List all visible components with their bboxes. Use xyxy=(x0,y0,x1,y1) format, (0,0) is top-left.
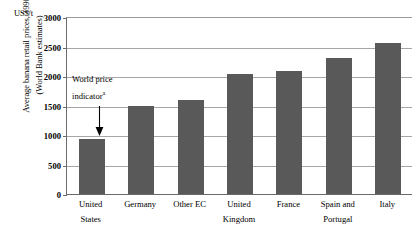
x-axis-category-label: Italy xyxy=(363,197,412,212)
y-axis-tick-label: 3000 xyxy=(44,13,61,23)
bar-slot xyxy=(166,18,215,194)
x-axis-category-label: UnitedStates xyxy=(66,197,115,227)
annotation-line-1: World price xyxy=(72,72,113,88)
x-axis-category-label-line: Other EC xyxy=(165,197,214,212)
x-axis-category-label: Other EC xyxy=(165,197,214,212)
y-axis-tick-label: 1500 xyxy=(44,102,61,112)
x-axis-category-label-line: United xyxy=(214,197,263,212)
x-axis-category-label-line: United xyxy=(66,197,115,212)
y-axis-tick-label: 2000 xyxy=(44,72,61,82)
x-axis-category-label-line: Kingdom xyxy=(214,212,263,227)
x-axis-category-labels: UnitedStatesGermanyOther ECUnitedKingdom… xyxy=(66,197,412,237)
bar[interactable] xyxy=(375,43,401,194)
plot-area: 050010001500200025003000 xyxy=(66,17,412,194)
x-axis-category-label-line: France xyxy=(264,197,313,212)
bar[interactable] xyxy=(79,139,105,194)
bar-series xyxy=(67,18,412,194)
bar-slot xyxy=(364,18,413,194)
x-axis-category-label: France xyxy=(264,197,313,212)
y-axis-tick-label: 500 xyxy=(48,161,61,171)
bar-slot xyxy=(67,18,116,194)
annotation-line-2: indicatora xyxy=(72,88,113,105)
y-axis-tick-label: 2500 xyxy=(44,43,61,53)
annotation-line-2-text: indicator xyxy=(72,91,103,101)
bar[interactable] xyxy=(227,74,253,194)
world-price-indicator-annotation: World price indicatora xyxy=(72,72,113,105)
bar-chart-figure: US$/t Average banana retail prices, 1990… xyxy=(0,0,420,238)
x-axis-category-label: Germany xyxy=(115,197,164,212)
down-arrow-icon xyxy=(95,106,104,136)
y-axis-title-line-1: Average banana retail prices, 1990 xyxy=(20,0,33,113)
bar-slot xyxy=(314,18,363,194)
bar-slot xyxy=(116,18,165,194)
x-axis-category-label-line: Germany xyxy=(115,197,164,212)
x-axis-category-label: Spain andPortugal xyxy=(313,197,362,227)
bar[interactable] xyxy=(178,100,204,194)
bar[interactable] xyxy=(326,58,352,194)
y-axis-title-line-2: (World Bank estimates) xyxy=(33,15,46,94)
y-axis-tick-label: 1000 xyxy=(44,131,61,141)
x-axis-category-label-line: Portugal xyxy=(313,212,362,227)
x-axis-category-label-line: Spain and xyxy=(313,197,362,212)
bar[interactable] xyxy=(128,106,154,194)
y-axis-tick-mark xyxy=(63,195,67,196)
annotation-footnote-marker: a xyxy=(103,90,106,96)
bar[interactable] xyxy=(276,71,302,194)
x-axis-category-label-line: States xyxy=(66,212,115,227)
y-axis-tick-label: 0 xyxy=(57,190,61,200)
x-axis-category-label: UnitedKingdom xyxy=(214,197,263,227)
bar-slot xyxy=(265,18,314,194)
x-axis-category-label-line: Italy xyxy=(363,197,412,212)
bar-slot xyxy=(215,18,264,194)
